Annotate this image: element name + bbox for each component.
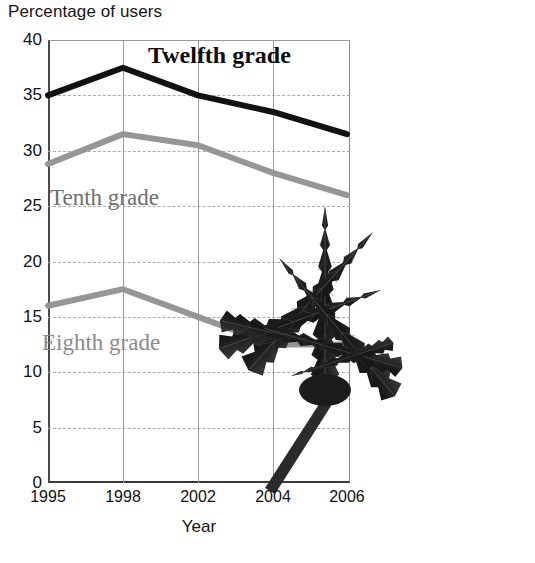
- x-axis-tick-labels: 1995 1998 2002 2004 2006: [48, 488, 350, 512]
- series-lines: [48, 40, 350, 483]
- y-tick-20: 20: [2, 252, 42, 272]
- x-tick-1995: 1995: [30, 488, 66, 506]
- y-tick-35: 35: [2, 85, 42, 105]
- y-tick-10: 10: [2, 362, 42, 382]
- y-tick-25: 25: [2, 196, 42, 216]
- y-tick-5: 5: [2, 418, 42, 438]
- x-tick-2006: 2006: [329, 488, 365, 506]
- chart-title: Percentage of users: [8, 2, 162, 22]
- plot-area: [48, 40, 350, 483]
- x-axis-label: Year: [48, 517, 350, 537]
- chart-figure: Percentage of users 40 35 30 25 20 15 10…: [0, 0, 535, 563]
- y-tick-30: 30: [2, 141, 42, 161]
- x-tick-1998: 1998: [105, 488, 141, 506]
- y-axis-tick-labels: 40 35 30 25 20 15 10 5 0: [0, 40, 42, 483]
- x-tick-2002: 2002: [180, 488, 216, 506]
- series-line-twelfth-grade: [48, 68, 347, 134]
- series-label-tenth-grade: Tenth grade: [50, 185, 159, 211]
- y-tick-15: 15: [2, 307, 42, 327]
- y-tick-40: 40: [2, 30, 42, 50]
- x-tick-2004: 2004: [255, 488, 291, 506]
- series-label-eighth-grade: Eighth grade: [42, 330, 160, 356]
- series-label-twelfth-grade: Twelfth grade: [148, 42, 291, 69]
